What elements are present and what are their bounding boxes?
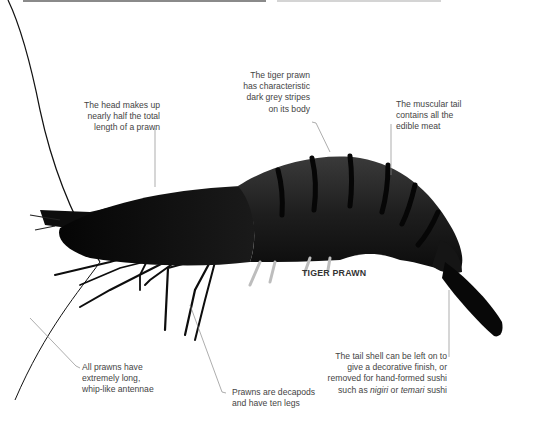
annotation-head-line: nearly half the total (70, 111, 160, 122)
annotation-stripes-line: dark grey stripes (240, 92, 310, 103)
term-temari: temari (401, 385, 425, 395)
figure-title: TIGER PRAWN (302, 268, 366, 278)
prawn-illustration (0, 0, 537, 428)
annotation-stripes-line: has characteristic (240, 81, 310, 92)
annotation-tail-shell-line: give a decorative finish, or (310, 362, 447, 373)
text-fragment: such as (338, 385, 370, 395)
annotation-tail-shell-line: removed for hand-formed sushi (310, 373, 447, 384)
annotation-tail-shell-line: The tail shell can be left on to (310, 351, 447, 362)
annotation-head-line: length of a prawn (70, 122, 160, 133)
annotation-antennae-line: whip-like antennae (82, 384, 177, 395)
carapace (59, 186, 254, 265)
annotation-antennae: All prawns have extremely long, whip-lik… (82, 362, 177, 396)
annotation-head: The head makes up nearly half the total … (70, 100, 160, 134)
annotation-tail-meat-line: The muscular tail (396, 99, 491, 110)
annotation-legs-line: Prawns are decapods (232, 387, 332, 398)
tail-fan (442, 262, 503, 336)
annotation-antennae-line: All prawns have (82, 362, 177, 373)
annotation-stripes-line: on its body (240, 104, 310, 115)
annotation-tail-meat-line: edible meat (396, 121, 491, 132)
annotation-legs: Prawns are decapods and have ten legs (232, 387, 332, 409)
annotation-stripes-line: The tiger prawn (240, 70, 310, 81)
annotation-stripes: The tiger prawn has characteristic dark … (240, 70, 310, 115)
text-fragment: sushi (425, 385, 447, 395)
annotation-head-line: The head makes up (70, 100, 160, 111)
annotation-legs-line: and have ten legs (232, 398, 332, 409)
annotation-antennae-line: extremely long, (82, 373, 177, 384)
annotation-tail-meat-line: contains all the (396, 110, 491, 121)
annotation-tail-meat: The muscular tail contains all the edibl… (396, 99, 491, 133)
term-nigiri: nigiri (370, 385, 388, 395)
text-fragment: or (388, 385, 400, 395)
